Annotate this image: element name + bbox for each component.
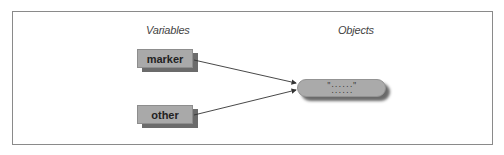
arrow-marker-to-object (194, 60, 296, 83)
reference-arrows (0, 0, 504, 155)
arrow-other-to-object (194, 90, 296, 115)
